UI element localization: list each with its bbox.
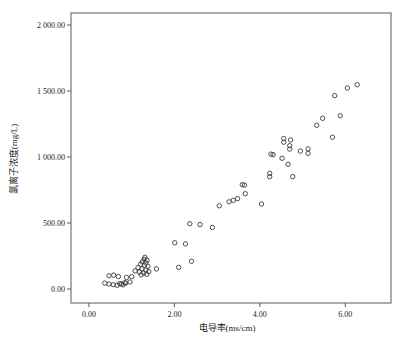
data-point [280,156,284,160]
data-point [306,151,310,155]
x-tick-label: 0.00 [82,310,96,319]
data-point [173,241,177,245]
data-point [177,265,181,269]
data-point [183,242,187,246]
data-point [210,225,214,229]
x-tick-label: 4.00 [253,310,267,319]
y-tick-label: 1 000.00 [37,153,65,162]
data-point [112,273,116,277]
data-points-group [103,83,360,288]
data-point [288,138,292,142]
x-tick-label: 2.00 [167,310,181,319]
data-point [243,192,247,196]
data-point [116,274,120,278]
data-point [298,149,302,153]
y-axis-title: 氯离子浓度(mg/L) [8,124,19,195]
data-point [235,196,239,200]
scatter-plot-figure: 0.00500.001 000.001 500.002 000.00 0.002… [0,0,402,351]
x-tick-label: 6.00 [338,310,352,319]
data-point [154,267,158,271]
scatter-plot-canvas: 0.00500.001 000.001 500.002 000.00 0.002… [0,0,402,351]
data-point [332,93,336,97]
data-point [198,222,202,226]
plot-frame [71,13,391,303]
data-point [259,202,263,206]
data-point [227,200,231,204]
data-point [320,116,324,120]
data-point [107,282,111,286]
data-point [130,275,134,279]
y-tick-label: 2 000.00 [37,21,65,30]
data-point [286,162,290,166]
data-point [107,274,111,278]
data-point [189,259,193,263]
data-point [315,123,319,127]
data-point [124,275,128,279]
y-axis: 0.00500.001 000.001 500.002 000.00 [37,21,71,294]
data-point [217,204,221,208]
y-tick-label: 500.00 [43,219,65,228]
data-point [338,114,342,118]
y-tick-label: 0.00 [51,285,65,294]
data-point [330,135,334,139]
data-point [133,269,137,273]
data-point [128,280,132,284]
data-point [291,175,295,179]
data-point [188,222,192,226]
y-tick-label: 1 500.00 [37,87,65,96]
x-axis-title: 电导率(ms/cm) [199,322,256,333]
data-point [345,86,349,90]
x-axis: 0.002.004.006.00 [82,303,352,319]
data-point [231,198,235,202]
data-point [103,281,107,285]
data-point [355,83,359,87]
data-point [306,147,310,151]
